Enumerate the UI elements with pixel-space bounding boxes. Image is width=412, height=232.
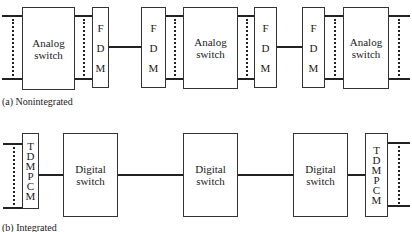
switch-label: Digital	[75, 163, 106, 175]
fdm-4: F D M	[302, 7, 325, 88]
mux-letter: M	[261, 58, 271, 78]
mux-letter: D	[97, 38, 105, 58]
analog-switch-2: Analogswitch	[183, 7, 238, 89]
mux-letter: D	[262, 38, 270, 58]
trunk-line	[389, 78, 410, 80]
channel-line	[75, 78, 93, 80]
mux-letter: F	[262, 18, 268, 38]
channel-bundle-dots	[398, 19, 400, 76]
switch-label: switch	[195, 175, 226, 187]
digital-switch-2: Digitalswitch	[183, 133, 238, 217]
channel-bundle-dots	[12, 19, 14, 76]
analog-switch-3: Analogswitch	[343, 7, 389, 89]
tdm-pcm-1: T D M P C M	[22, 133, 39, 209]
digital-switch-3: Digitalswitch	[293, 133, 348, 217]
fdm-3: F D M	[254, 7, 277, 88]
switch-label: Analog	[194, 36, 226, 48]
trunk-line	[2, 15, 23, 17]
mux-letter: M	[372, 195, 382, 205]
channel-line	[166, 15, 184, 17]
mux-letter: F	[310, 18, 316, 38]
mux-letter: D	[310, 38, 318, 58]
tdm-pcm-2: T D M P C M	[365, 133, 388, 217]
caption-integrated: (b) Integrated	[2, 222, 57, 232]
trunk-line	[348, 174, 366, 176]
mux-letter: M	[149, 58, 159, 78]
channel-line	[166, 78, 184, 80]
mux-letter: F	[97, 18, 103, 38]
digital-switch-1: Digitalswitch	[63, 133, 118, 217]
mux-letter: M	[309, 58, 319, 78]
analog-switch-1: Analogswitch	[22, 7, 75, 90]
mux-letter: F	[150, 18, 156, 38]
switch-label: Digital	[195, 163, 226, 175]
mux-letter: M	[26, 191, 36, 201]
trunk-line	[3, 207, 23, 209]
channel-line	[238, 78, 255, 80]
channel-bundle-dots	[83, 19, 85, 76]
switch-label: switch	[305, 175, 336, 187]
fdm-2: F D M	[141, 7, 166, 88]
mux-letter: D	[150, 38, 158, 58]
channel-bundle-dots	[398, 146, 400, 204]
channel-line	[325, 78, 344, 80]
trunk-line	[277, 46, 303, 48]
switch-label: switch	[32, 49, 64, 61]
trunk-line	[2, 78, 23, 80]
trunk-line	[39, 174, 64, 176]
channel-line	[325, 15, 344, 17]
channel-line	[75, 15, 93, 17]
channel-bundle-dots	[334, 19, 336, 76]
trunk-line	[388, 205, 410, 207]
switch-label: Digital	[305, 163, 336, 175]
switch-label: Analog	[350, 36, 382, 48]
switch-label: Analog	[32, 37, 64, 49]
trunk-line	[3, 143, 23, 145]
channel-bundle-dots	[246, 19, 248, 76]
switch-label: switch	[75, 175, 106, 187]
trunk-line	[238, 174, 294, 176]
trunk-line	[118, 174, 184, 176]
caption-nonintegrated: (a) Nonintegrated	[2, 96, 73, 107]
mux-letter: M	[96, 58, 106, 78]
switch-label: switch	[350, 48, 382, 60]
switch-label: switch	[194, 48, 226, 60]
fdm-1: F D M	[92, 7, 109, 88]
channel-line	[238, 15, 255, 17]
trunk-line	[109, 46, 142, 48]
channel-bundle-dots	[174, 19, 176, 76]
trunk-line	[389, 15, 410, 17]
channel-bundle-dots	[13, 147, 15, 205]
trunk-line	[388, 142, 410, 144]
